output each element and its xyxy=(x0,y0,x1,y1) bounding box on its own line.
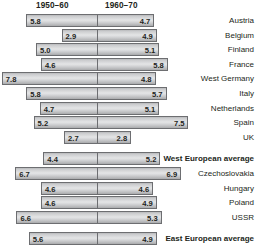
value-1950-60: 5.8 xyxy=(30,15,41,27)
value-1950-60: 4.7 xyxy=(44,103,55,115)
value-1960-70: 7.5 xyxy=(174,117,185,129)
bar-czechoslovakia: 6.76.9 xyxy=(15,167,181,180)
bar-ussr: 6.65.3 xyxy=(16,211,161,224)
column-header-1950-60: 1950–60 xyxy=(36,1,69,10)
row-label-france: France xyxy=(229,58,254,71)
row-label-ussr: USSR xyxy=(232,211,254,224)
bar-poland: 4.64.9 xyxy=(41,196,157,209)
column-header-1960-70: 1960–70 xyxy=(105,1,138,10)
decade-divider xyxy=(97,132,98,144)
chart-row: 5.27.5Spain xyxy=(0,116,256,129)
row-label-hungary: Hungary xyxy=(224,182,254,195)
row-label-poland: Poland xyxy=(229,196,254,209)
bar-netherlands: 4.75.1 xyxy=(40,102,160,115)
bar-west-germany: 7.84.8 xyxy=(2,72,156,85)
plot-area: 5.84.7Austria2.94.9Belgium5.05.1Finland4… xyxy=(0,13,256,245)
chart-row: 4.45.2West European average xyxy=(0,152,256,165)
value-1960-70: 6.9 xyxy=(167,168,178,180)
decade-divider xyxy=(97,30,98,42)
row-label-east-european-average: East European average xyxy=(166,232,254,245)
value-1960-70: 5.1 xyxy=(145,103,156,115)
value-1950-60: 4.4 xyxy=(47,153,58,165)
row-label-austria: Austria xyxy=(229,14,254,27)
bar-uk: 2.72.8 xyxy=(64,131,131,144)
decade-divider xyxy=(97,15,98,27)
value-1960-70: 4.9 xyxy=(142,233,153,245)
value-1950-60: 5.2 xyxy=(38,117,49,129)
value-1950-60: 4.6 xyxy=(45,183,56,195)
value-1960-70: 4.7 xyxy=(140,15,151,27)
chart-row: 7.84.8West Germany xyxy=(0,72,256,85)
value-1950-60: 7.8 xyxy=(6,73,17,85)
bar-austria: 5.84.7 xyxy=(26,14,154,27)
chart-row: 4.75.1Netherlands xyxy=(0,102,256,115)
decade-divider xyxy=(97,59,98,71)
value-1950-60: 6.6 xyxy=(20,212,31,224)
chart-row: 5.84.7Austria xyxy=(0,14,256,27)
column-headers: 1950–60 1960–70 xyxy=(0,0,256,14)
value-1950-60: 5.0 xyxy=(40,44,51,56)
bar-east-european-average: 5.64.9 xyxy=(29,232,157,245)
value-1950-60: 6.7 xyxy=(19,168,30,180)
value-1960-70: 5.3 xyxy=(147,212,158,224)
decade-divider xyxy=(97,183,98,195)
value-1960-70: 5.7 xyxy=(152,88,163,100)
row-label-netherlands: Netherlands xyxy=(211,102,254,115)
value-1950-60: 4.6 xyxy=(45,197,56,209)
decade-divider xyxy=(97,212,98,224)
bar-hungary: 4.64.6 xyxy=(41,182,153,195)
chart-row: 4.64.9Poland xyxy=(0,196,256,209)
value-1950-60: 2.9 xyxy=(66,30,77,42)
chart-row: 2.72.8UK xyxy=(0,131,256,144)
decade-divider xyxy=(97,44,98,56)
chart-row: 6.76.9Czechoslovakia xyxy=(0,167,256,180)
growth-rate-diverging-bar-chart: 1950–60 1960–70 5.84.7Austria2.94.9Belgi… xyxy=(0,0,256,245)
value-1960-70: 5.8 xyxy=(153,59,164,71)
row-label-czechoslovakia: Czechoslovakia xyxy=(198,167,254,180)
value-1960-70: 4.8 xyxy=(141,73,152,85)
bar-france: 4.65.8 xyxy=(41,58,168,71)
decade-divider xyxy=(97,197,98,209)
chart-row: 5.05.1Finland xyxy=(0,43,256,56)
bar-italy: 5.85.7 xyxy=(26,87,166,100)
value-1960-70: 5.2 xyxy=(146,153,157,165)
value-1960-70: 2.8 xyxy=(117,132,128,144)
bar-west-european-average: 4.45.2 xyxy=(43,152,160,165)
value-1960-70: 5.1 xyxy=(145,44,156,56)
chart-row: 6.65.3USSR xyxy=(0,211,256,224)
row-label-west-germany: West Germany xyxy=(201,72,254,85)
bar-belgium: 2.94.9 xyxy=(62,29,157,42)
decade-divider xyxy=(97,88,98,100)
chart-row: 4.64.6Hungary xyxy=(0,182,256,195)
decade-divider xyxy=(97,153,98,165)
decade-divider xyxy=(97,117,98,129)
decade-divider xyxy=(97,103,98,115)
row-label-spain: Spain xyxy=(234,116,254,129)
bar-finland: 5.05.1 xyxy=(36,43,159,56)
value-1950-60: 4.6 xyxy=(45,59,56,71)
row-label-italy: Italy xyxy=(239,87,254,100)
chart-row: 4.65.8France xyxy=(0,58,256,71)
row-label-uk: UK xyxy=(243,131,254,144)
value-1950-60: 5.8 xyxy=(30,88,41,100)
row-label-belgium: Belgium xyxy=(225,29,254,42)
value-1950-60: 5.6 xyxy=(33,233,44,245)
value-1960-70: 4.6 xyxy=(139,183,150,195)
row-label-west-european-average: West European average xyxy=(163,152,254,165)
decade-divider xyxy=(97,233,98,245)
decade-divider xyxy=(97,73,98,85)
chart-row: 2.94.9Belgium xyxy=(0,29,256,42)
chart-row: 5.64.9East European average xyxy=(0,232,256,245)
decade-divider xyxy=(97,168,98,180)
value-1950-60: 2.7 xyxy=(68,132,79,144)
value-1960-70: 4.9 xyxy=(142,197,153,209)
value-1960-70: 4.9 xyxy=(142,30,153,42)
bar-spain: 5.27.5 xyxy=(34,116,189,129)
row-label-finland: Finland xyxy=(228,43,254,56)
chart-row: 5.85.7Italy xyxy=(0,87,256,100)
